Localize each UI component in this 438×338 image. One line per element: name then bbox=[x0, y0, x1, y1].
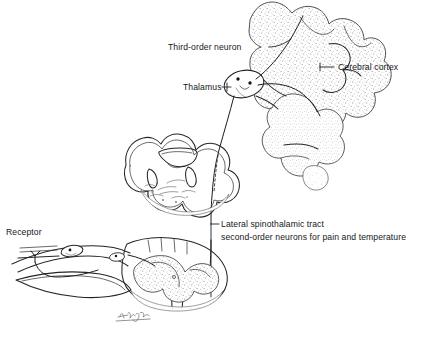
label-cerebral-cortex: Cerebral cortex bbox=[338, 62, 399, 72]
cortex-blob-lower bbox=[303, 166, 328, 191]
label-thalamus: Thalamus bbox=[183, 82, 222, 92]
label-receptor: Receptor bbox=[6, 227, 42, 237]
label-third-order-neuron: Third-order neuron bbox=[168, 42, 242, 52]
thalamus-synapse-dot-1 bbox=[236, 77, 239, 80]
root-node-dot bbox=[115, 255, 117, 257]
ganglion-cell-body-dot bbox=[69, 249, 72, 252]
label-tract-line1: Lateral spinothalamic tract bbox=[221, 219, 325, 229]
thalamus-synapse-dot-2 bbox=[248, 81, 251, 84]
anatomy-diagram: Third-order neuron Cerebral cortex Thala… bbox=[0, 0, 438, 338]
label-tract-line2: second-order neurons for pain and temper… bbox=[221, 232, 406, 242]
figure-root: Third-order neuron Cerebral cortex Thala… bbox=[0, 0, 438, 338]
central-canal bbox=[173, 276, 176, 279]
